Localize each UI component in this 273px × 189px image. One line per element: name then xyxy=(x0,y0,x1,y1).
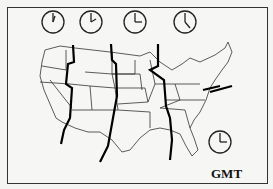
gmt-label: GMT xyxy=(211,166,242,182)
clock-central-icon xyxy=(124,11,146,33)
clock-pacific-icon xyxy=(42,11,64,33)
clock-gmt-icon xyxy=(209,131,231,153)
clock-mountain-icon xyxy=(80,11,102,33)
clock-eastern-icon xyxy=(174,11,196,33)
us-map-outline xyxy=(40,42,232,156)
us-time-zone-map xyxy=(0,0,273,189)
time-zone-boundaries xyxy=(61,44,232,162)
